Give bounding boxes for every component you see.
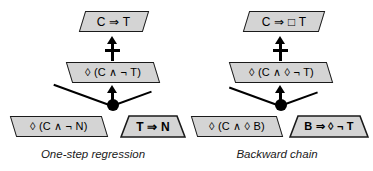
node-premise-right-left-label: T ⇒ N (136, 121, 170, 133)
node-middle-left-label: ◊ (C ∧ ¬ T) (85, 67, 141, 78)
caption-backward-chain: Backward chain (184, 148, 370, 160)
arrow-crossbar (105, 49, 120, 52)
join-leg-right (112, 91, 152, 107)
node-premise-left-right: ◊ (C ∧ ◊ B) (191, 116, 283, 137)
node-middle-right-label: ◊ (C ∧ ◊ ¬ T) (249, 67, 314, 78)
node-middle-left: ◊ (C ∧ ¬ T) (66, 62, 160, 83)
node-premise-right-left: T ⇒ N (120, 115, 186, 138)
node-conclusion-right: C ⇒ □ T (243, 11, 325, 32)
node-premise-right-right-label: B ⇒ ◊ ¬ T (304, 121, 354, 132)
join-leg-left (53, 84, 112, 107)
panel-one-step-regression: C ⇒ T ◊ (C ∧ ¬ T) ◊ (C ∧ ¬ N) (0, 0, 186, 171)
node-conclusion-left-label: C ⇒ T (97, 16, 130, 28)
arrow-crossbar (273, 49, 288, 52)
diagram-canvas: C ⇒ T ◊ (C ∧ ¬ T) ◊ (C ∧ ¬ N) (0, 0, 373, 171)
node-premise-right-right: B ⇒ ◊ ¬ T (289, 115, 369, 138)
node-conclusion-right-label: C ⇒ □ T (262, 16, 306, 28)
node-conclusion-left: C ⇒ T (79, 11, 149, 32)
join-leg-right (280, 91, 318, 107)
caption-one-step-regression: One-step regression (0, 148, 186, 160)
join-leg-left (229, 87, 280, 107)
panel-backward-chain: C ⇒ □ T ◊ (C ∧ ◊ ¬ T) ◊ (C ∧ ◊ B) (184, 0, 370, 171)
node-middle-right: ◊ (C ∧ ◊ ¬ T) (229, 62, 333, 83)
node-premise-left-left: ◊ (C ∧ ¬ N) (10, 116, 108, 137)
node-premise-left-right-label: ◊ (C ∧ ◊ B) (209, 121, 265, 132)
node-premise-left-left-label: ◊ (C ∧ ¬ N) (30, 121, 88, 132)
